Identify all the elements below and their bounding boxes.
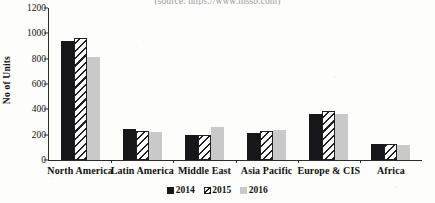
source-caption: (source: https://www.ihssb.com) — [0, 0, 435, 5]
bar-2015 — [260, 131, 273, 160]
y-tick-mark — [44, 84, 48, 85]
bar-2014 — [61, 41, 74, 160]
bar-2015 — [74, 38, 87, 160]
legend-label: 2014 — [176, 185, 195, 195]
bar-group — [49, 8, 111, 160]
y-axis-ticks: 020040060080010001200 — [16, 8, 46, 160]
bar-group — [111, 8, 173, 160]
legend-item-2016: 2016 — [240, 185, 268, 195]
bar-chart: No of Units 020040060080010001200 North … — [0, 8, 435, 203]
legend-item-2015: 2015 — [204, 185, 232, 195]
y-axis-label: No of Units — [2, 56, 12, 104]
x-tick-label: Asia Pacific — [241, 165, 292, 176]
legend-label: 2016 — [249, 185, 268, 195]
bar-2015 — [136, 131, 149, 160]
y-tick-label: 400 — [16, 104, 46, 114]
x-tick-mark — [298, 160, 299, 163]
bar-2014 — [247, 133, 260, 160]
bar-2016 — [335, 114, 348, 160]
y-tick-label: 800 — [16, 54, 46, 64]
bar-2014 — [123, 129, 136, 160]
y-tick-mark — [44, 33, 48, 34]
bar-group — [173, 8, 235, 160]
x-tick-label: Middle East — [178, 165, 231, 176]
y-tick-mark — [44, 109, 48, 110]
x-tick-label: North America — [47, 165, 112, 176]
x-tick-mark — [360, 160, 361, 163]
y-tick-mark — [44, 58, 48, 59]
bar-2014 — [185, 135, 198, 160]
y-tick-label: 1000 — [16, 28, 46, 38]
bar-2016 — [149, 132, 162, 161]
legend-swatch-icon — [204, 187, 211, 194]
y-tick-label: 600 — [16, 79, 46, 89]
bar-2016 — [87, 57, 100, 160]
bar-2015 — [198, 135, 211, 160]
legend-label: 2015 — [212, 185, 231, 195]
y-tick-label: 1200 — [16, 3, 46, 13]
y-tick-label: 0 — [16, 155, 46, 165]
bar-group — [298, 8, 360, 160]
x-axis-labels: North AmericaLatin AmericaMiddle EastAsi… — [49, 165, 422, 181]
x-tick-label: Europe & CIS — [297, 165, 360, 176]
x-tick-mark — [173, 160, 174, 163]
bar-2016 — [273, 130, 286, 160]
bar-2014 — [309, 114, 322, 160]
x-tick-mark — [236, 160, 237, 163]
bar-2015 — [384, 144, 397, 160]
bar-2016 — [211, 127, 224, 160]
y-tick-mark — [44, 134, 48, 135]
bar-2014 — [371, 144, 384, 160]
legend-item-2014: 2014 — [167, 185, 195, 195]
y-tick-mark — [44, 160, 48, 161]
bar-group — [236, 8, 298, 160]
x-tick-mark — [111, 160, 112, 163]
legend-swatch-icon — [240, 187, 247, 194]
x-tick-label: Latin America — [111, 165, 174, 176]
plot-area — [49, 8, 422, 160]
x-tick-label: Africa — [377, 165, 405, 176]
bar-2015 — [322, 111, 335, 160]
y-tick-mark — [44, 8, 48, 9]
bar-group — [360, 8, 422, 160]
chart-legend: 201420152016 — [0, 185, 435, 195]
bar-2016 — [397, 145, 410, 160]
y-tick-label: 200 — [16, 130, 46, 140]
legend-swatch-icon — [167, 187, 174, 194]
